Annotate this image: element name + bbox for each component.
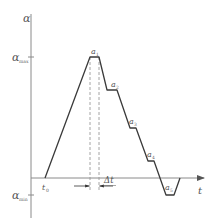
a4-subscript: 4: [152, 155, 155, 160]
delta-t-label: Δt: [103, 175, 114, 185]
y-axis-label: α: [23, 12, 31, 25]
a1-subscript: 1: [96, 52, 99, 57]
t0-subscript: 0: [46, 188, 49, 193]
a3-subscript: 3: [134, 122, 137, 127]
a2-subscript: 2: [116, 85, 119, 90]
x-axis-label: t: [198, 185, 203, 196]
alpha-min-subscript: min: [19, 197, 28, 202]
a5-subscript: 5: [170, 188, 173, 193]
alpha-max-subscript: max: [19, 59, 29, 64]
angle-time-diagram: α t α max α min t 0 a 1 a 2 a 3 a 4 a 5 …: [0, 0, 214, 222]
